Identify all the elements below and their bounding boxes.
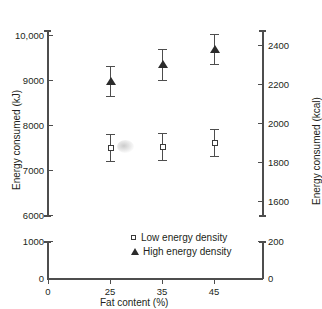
- image-artifact-smudge: [117, 140, 134, 153]
- right-axis-title: Energy consumed (kcal): [312, 97, 322, 205]
- chart-legend: Low energy density High energy density: [131, 233, 231, 261]
- left-tick-9000: [48, 80, 53, 81]
- left-tick-label-7000: 7000: [0, 166, 44, 176]
- right-tick-2200: [258, 84, 263, 85]
- right-tick-label-2000: 2000: [268, 119, 289, 129]
- x-tick-45: [214, 279, 215, 284]
- x-axis-title: Fat content (%): [100, 298, 168, 308]
- error-cap-high-25-bottom: [106, 96, 115, 97]
- right-tick-1800: [258, 162, 263, 163]
- x-tick-label-35: 35: [154, 287, 170, 297]
- left-axis-upper: [47, 30, 49, 217]
- right-tick-2000: [258, 123, 263, 124]
- x-tick-25: [110, 279, 111, 284]
- right-tick-2400: [258, 45, 263, 46]
- error-cap-high-35-top: [158, 49, 167, 50]
- left-tick-1000: [48, 241, 53, 242]
- legend-label-low: Low energy density: [141, 232, 227, 243]
- left-axis-upper-top-cap: [44, 30, 51, 32]
- left-tick-label-1000: 1000: [0, 237, 44, 247]
- error-cap-low-25-top: [106, 134, 115, 135]
- legend-item-low-energy-density[interactable]: Low energy density: [131, 233, 231, 247]
- error-cap-high-45-bottom: [210, 64, 219, 65]
- right-axis-lower: [262, 241, 264, 279]
- error-cap-high-45-top: [210, 34, 219, 35]
- right-tick-label-1800: 1800: [268, 158, 289, 168]
- right-tick-label-2400: 2400: [268, 41, 289, 51]
- filled-triangle-icon: [131, 248, 139, 255]
- error-cap-high-25-top: [106, 66, 115, 67]
- error-cap-high-35-bottom: [158, 80, 167, 81]
- right-tick-1600: [258, 201, 263, 202]
- x-tick-label-25: 25: [102, 287, 118, 297]
- x-axis-line: [47, 278, 263, 280]
- x-tick-0: [48, 279, 49, 284]
- data-point-high-25: [106, 77, 116, 85]
- right-axis-upper-top-cap: [259, 30, 266, 32]
- error-cap-low-35-bottom: [158, 160, 167, 161]
- data-point-low-35: [160, 144, 166, 150]
- right-axis-upper-bottom-cap: [259, 215, 266, 217]
- right-tick-label-lower-0: 0: [268, 274, 273, 284]
- data-point-low-45: [212, 140, 218, 146]
- left-tick-7000: [48, 170, 53, 171]
- left-tick-label-10000: 10,000: [0, 31, 44, 41]
- legend-item-high-energy-density[interactable]: High energy density: [131, 247, 231, 261]
- right-tick-200: [258, 241, 263, 242]
- left-tick-label-0: 0: [0, 274, 44, 284]
- left-tick-10000: [48, 35, 53, 36]
- error-cap-low-25-bottom: [106, 161, 115, 162]
- open-square-icon: [131, 235, 136, 240]
- right-tick-label-200: 200: [268, 237, 284, 247]
- x-tick-35: [162, 279, 163, 284]
- error-cap-low-35-top: [158, 133, 167, 134]
- left-tick-8000: [48, 125, 53, 126]
- data-point-low-25: [108, 145, 114, 151]
- error-cap-low-45-bottom: [210, 156, 219, 157]
- data-point-high-35: [158, 60, 168, 68]
- x-tick-label-0: 0: [40, 287, 56, 297]
- left-tick-6000: [48, 215, 53, 216]
- left-axis-title: Energy consumed (kJ): [12, 90, 22, 190]
- left-axis-lower: [47, 241, 49, 279]
- legend-label-high: High energy density: [143, 246, 231, 257]
- right-tick-label-1600: 1600: [268, 197, 289, 207]
- right-tick-label-2200: 2200: [268, 80, 289, 90]
- left-tick-label-8000: 8000: [0, 121, 44, 131]
- left-tick-label-6000: 6000: [0, 211, 44, 221]
- x-tick-label-45: 45: [206, 287, 222, 297]
- data-point-high-45: [210, 45, 220, 53]
- error-cap-low-45-top: [210, 129, 219, 130]
- left-tick-label-9000: 9000: [0, 76, 44, 86]
